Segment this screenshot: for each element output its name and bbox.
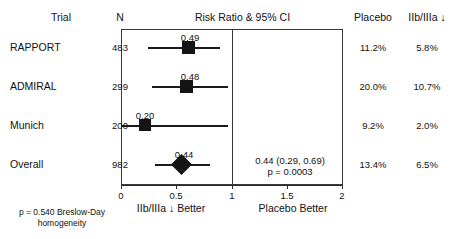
overall-p-value: p = 0.0003 bbox=[238, 166, 342, 177]
footnote-line-2: homogeneity bbox=[38, 218, 87, 228]
column-header-iib-iiia: IIb/IIIa ↓ bbox=[398, 11, 456, 23]
column-header-trial: Trial bbox=[22, 11, 100, 23]
column-header-placebo: Placebo bbox=[345, 11, 401, 23]
column-header-risk-ratio: Risk Ratio & 95% CI bbox=[150, 11, 335, 23]
row-n-rappport: 483 bbox=[100, 42, 140, 53]
row-drug-rate-rappport: 5.8% bbox=[398, 42, 456, 53]
null-effect-line bbox=[232, 29, 233, 185]
x-axis-tick bbox=[287, 185, 288, 189]
column-header-n: N bbox=[100, 11, 140, 23]
table-row: Overall bbox=[10, 158, 106, 170]
x-axis-tick-label: 1.5 bbox=[272, 190, 302, 201]
footnote: p = 0.540 Breslow-Day homogeneity bbox=[6, 207, 118, 229]
confidence-interval-line-munich bbox=[122, 125, 228, 127]
axis-caption-left: IIb/IIIa ↓ Better bbox=[110, 202, 232, 214]
footnote-line-1: p = 0.540 Breslow-Day bbox=[19, 207, 105, 217]
row-placebo-rate-admiral: 20.0% bbox=[345, 81, 401, 92]
row-placebo-rate-overall: 13.4% bbox=[345, 159, 401, 170]
row-drug-rate-munich: 2.0% bbox=[398, 120, 456, 131]
table-row: Munich bbox=[10, 119, 106, 131]
x-axis-tick-label: 0 bbox=[106, 190, 136, 201]
effect-marker-rappport bbox=[182, 41, 195, 54]
row-n-overall: 982 bbox=[100, 159, 140, 170]
effect-marker-munich bbox=[139, 119, 151, 131]
row-drug-rate-overall: 6.5% bbox=[398, 159, 456, 170]
row-drug-rate-admiral: 10.7% bbox=[398, 81, 456, 92]
x-axis-tick bbox=[342, 185, 343, 189]
x-axis-tick-label: 2 bbox=[327, 190, 357, 201]
row-placebo-rate-rappport: 11.2% bbox=[345, 42, 401, 53]
overall-estimate-ci: 0.44 (0.29, 0.69) bbox=[238, 155, 342, 166]
x-axis-tick bbox=[121, 185, 122, 189]
row-n-admiral: 299 bbox=[100, 81, 140, 92]
effect-marker-admiral bbox=[180, 80, 193, 93]
axis-caption-right: Placebo Better bbox=[232, 202, 354, 214]
table-row: ADMIRAL bbox=[10, 80, 106, 92]
x-axis-tick bbox=[232, 185, 233, 189]
x-axis-tick-label: 1 bbox=[217, 190, 247, 201]
row-placebo-rate-munich: 9.2% bbox=[345, 120, 401, 131]
forest-plot: Trial N Risk Ratio & 95% CI Placebo IIb/… bbox=[0, 0, 456, 239]
table-row: RAPPORT bbox=[10, 41, 106, 53]
x-axis-tick-label: 0.5 bbox=[161, 190, 191, 201]
x-axis-tick bbox=[176, 185, 177, 189]
